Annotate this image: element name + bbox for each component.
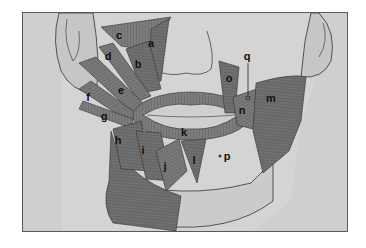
label-h: h xyxy=(115,135,122,146)
label-c: c xyxy=(116,30,122,41)
label-j: j xyxy=(163,161,166,172)
label-q: q xyxy=(244,51,251,62)
label-m: m xyxy=(266,93,276,104)
label-a: a xyxy=(148,38,154,49)
muscle-m xyxy=(253,76,306,173)
label-g: g xyxy=(101,111,108,122)
label-f: f xyxy=(86,92,90,103)
face-muscle-illustration xyxy=(23,13,348,232)
label-p: p xyxy=(224,151,231,162)
label-n: n xyxy=(239,105,246,116)
label-e: e xyxy=(118,85,124,96)
label-k: k xyxy=(181,127,187,138)
label-d: d xyxy=(105,51,112,62)
label-i: i xyxy=(141,145,144,156)
label-l: l xyxy=(192,155,195,166)
label-o: o xyxy=(226,73,233,84)
label-b: b xyxy=(135,59,142,70)
anatomy-figure-frame: a b c d e f g h i j k l m n o p q xyxy=(22,12,348,232)
point-p-marker xyxy=(218,154,221,157)
